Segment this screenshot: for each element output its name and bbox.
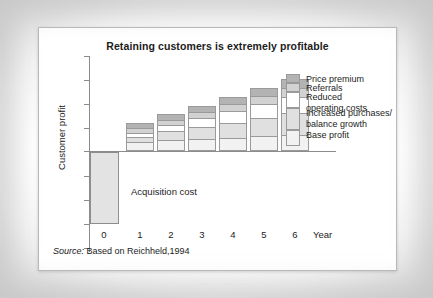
segment-base-profit bbox=[126, 142, 154, 151]
segment-price-premium bbox=[250, 88, 278, 96]
y-axis-tick bbox=[84, 56, 90, 57]
legend-swatch-icon bbox=[286, 92, 300, 108]
legend-swatch-icon bbox=[286, 74, 300, 83]
x-axis-tick-2: 2 bbox=[161, 229, 181, 240]
segment-reduced-operating-costs bbox=[219, 111, 247, 123]
legend-label: Increased purchases/ balance growth bbox=[306, 108, 392, 129]
segment-increased-purchases bbox=[219, 123, 247, 138]
segment-referrals bbox=[219, 104, 247, 111]
y-axis-tick bbox=[84, 128, 90, 129]
legend-swatch-icon bbox=[286, 130, 300, 146]
segment-referrals bbox=[250, 96, 278, 104]
legend-label: Base profit bbox=[306, 130, 349, 141]
x-axis-tick-1: 1 bbox=[130, 229, 150, 240]
x-axis-tick-6: 6 bbox=[285, 229, 305, 240]
legend-swatch-icon bbox=[286, 108, 300, 130]
segment-reduced-operating-costs bbox=[188, 118, 216, 127]
acquisition-cost-annotation: Acquisition cost bbox=[131, 186, 197, 197]
legend-item-base-profit: Base profit bbox=[286, 130, 349, 146]
source-note: Source: Based on Reichheld,1994 bbox=[53, 246, 190, 256]
segment-price-premium bbox=[219, 97, 247, 104]
legend-swatch-icon bbox=[286, 83, 300, 92]
y-axis-tick bbox=[84, 80, 90, 81]
segment-reduced-operating-costs bbox=[250, 104, 278, 118]
segment-increased-purchases bbox=[188, 127, 216, 139]
y-axis-tick bbox=[84, 224, 90, 225]
x-axis-tick-5: 5 bbox=[254, 229, 274, 240]
bar-year-3 bbox=[188, 106, 216, 151]
bar-acquisition-cost bbox=[90, 152, 119, 224]
source-prefix: Source: bbox=[53, 246, 84, 256]
y-axis-label: Customer profit bbox=[56, 88, 67, 188]
zero-baseline bbox=[89, 151, 336, 152]
segment-base-profit bbox=[219, 138, 247, 151]
bar-year-5 bbox=[250, 88, 278, 151]
segment-base-profit bbox=[250, 136, 278, 151]
source-text: Based on Reichheld,1994 bbox=[87, 246, 190, 256]
bar-year-2 bbox=[157, 114, 185, 151]
plot-area: Customer profit Acquisition cost bbox=[39, 28, 396, 270]
x-axis-tick-0: 0 bbox=[94, 229, 114, 240]
x-axis-unit-label: Year bbox=[313, 229, 332, 240]
bar-year-4 bbox=[219, 97, 247, 151]
bar-year-1 bbox=[126, 123, 154, 151]
legend-item-increased-purchases: Increased purchases/ balance growth bbox=[286, 108, 392, 130]
x-axis-tick-4: 4 bbox=[223, 229, 243, 240]
chart-card: Retaining customers is extremely profita… bbox=[38, 27, 397, 271]
segment-increased-purchases bbox=[157, 131, 185, 140]
segment-base-profit bbox=[188, 139, 216, 151]
y-axis-tick bbox=[84, 104, 90, 105]
segment-increased-purchases bbox=[250, 118, 278, 136]
segment-base-profit bbox=[157, 140, 185, 151]
x-axis-tick-3: 3 bbox=[192, 229, 212, 240]
screenshot-canvas: Retaining customers is extremely profita… bbox=[0, 0, 433, 298]
